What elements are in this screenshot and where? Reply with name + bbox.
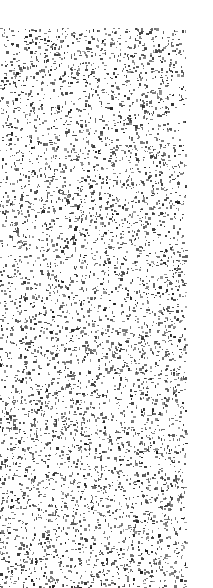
speckle-noise-texture <box>0 0 213 588</box>
